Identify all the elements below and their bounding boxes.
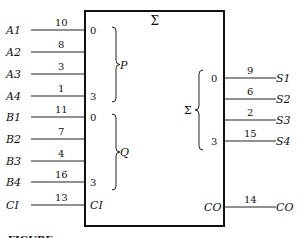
signal-label: A2 [5, 46, 21, 59]
pin-number: 6 [247, 86, 253, 97]
brace-group-q: Q [112, 114, 129, 190]
curly-brace [112, 114, 120, 190]
signal-label: S2 [276, 93, 291, 106]
output-pin-co: CO14CO [204, 194, 293, 214]
adder-body-box [85, 11, 224, 226]
input-pin-a3: A33 [5, 61, 85, 81]
adder-symbol-diagram: Σ A1100A28A33A413B1110B27B34B4163CI13CI … [0, 0, 303, 238]
signal-label: B2 [5, 133, 21, 146]
signal-label: A1 [5, 24, 21, 37]
input-pin-a4: A413 [5, 83, 96, 103]
group-label: Σ [184, 104, 192, 117]
input-pin-b3: B34 [5, 148, 85, 168]
input-pins: A1100A28A33A413B1110B27B34B4163CI13CI [5, 17, 103, 212]
curly-brace [195, 70, 203, 150]
pin-number: 2 [247, 107, 253, 118]
input-pin-a1: A1100 [5, 17, 96, 37]
curly-brace [112, 27, 120, 102]
output-pin-s4: S4153 [211, 128, 291, 148]
output-pin-s1: S190 [211, 65, 291, 85]
signal-label: S1 [276, 72, 291, 85]
output-pin-s2: S26 [224, 86, 291, 106]
input-pin-b4: B4163 [5, 169, 96, 189]
signal-label: B1 [5, 111, 21, 124]
adder-title-sigma: Σ [151, 14, 159, 28]
brace-group-sum: Σ [184, 70, 203, 150]
inner-pin-label: CO [204, 201, 221, 214]
signal-label: A3 [5, 68, 21, 81]
signal-label: A4 [5, 90, 21, 103]
pin-number: 11 [55, 104, 68, 115]
inner-pin-label: 3 [90, 177, 96, 188]
inner-pin-label: 3 [211, 136, 217, 147]
output-pins: S190S26S32S4153CO14CO [204, 65, 293, 214]
inner-pin-label: CI [90, 199, 103, 212]
bus-group-braces: PQΣ [112, 27, 203, 190]
group-label: Q [120, 146, 129, 159]
group-label: P [119, 59, 128, 72]
signal-label: B3 [5, 155, 21, 168]
inner-pin-label: 0 [211, 73, 217, 84]
brace-group-p: P [112, 27, 128, 102]
signal-label: S4 [276, 135, 291, 148]
figure-caption: FIGURE [8, 234, 53, 238]
inner-pin-label: 3 [90, 91, 96, 102]
pin-number: 10 [55, 17, 68, 28]
pin-number: 4 [58, 148, 64, 159]
input-pin-b2: B27 [5, 126, 85, 146]
pin-number: 9 [247, 65, 253, 76]
pin-number: 1 [58, 83, 64, 94]
signal-label: S3 [276, 114, 291, 127]
input-pin-ci: CI13CI [6, 192, 103, 212]
output-pin-s3: S32 [224, 107, 291, 127]
pin-number: 16 [55, 169, 68, 180]
pin-number: 13 [55, 192, 68, 203]
pin-number: 8 [58, 39, 64, 50]
input-pin-b1: B1110 [5, 104, 96, 124]
pin-number: 3 [58, 61, 64, 72]
pin-number: 7 [58, 126, 64, 137]
signal-label: CO [276, 201, 293, 214]
signal-label: B4 [5, 176, 21, 189]
inner-pin-label: 0 [90, 25, 96, 36]
pin-number: 14 [244, 194, 257, 205]
signal-label: CI [6, 199, 19, 212]
input-pin-a2: A28 [5, 39, 85, 59]
pin-number: 15 [244, 128, 257, 139]
inner-pin-label: 0 [90, 112, 96, 123]
